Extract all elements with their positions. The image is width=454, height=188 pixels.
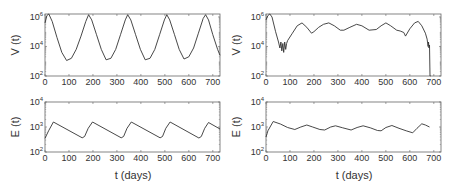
figure: 0100200300400500600700102104106010020030…	[0, 0, 454, 188]
x-tick-label: 400	[133, 77, 148, 87]
y-tick-label: 104	[30, 96, 44, 107]
x-tick-label: 100	[61, 153, 76, 163]
x-tick-label: 300	[109, 77, 124, 87]
xlabel-left: t (days)	[115, 169, 152, 181]
panel-left-bottom: 0100200300400500600700102103104	[30, 96, 221, 163]
y-tick-label: 103	[30, 121, 44, 132]
ylabel-left-bottom: E (t)	[9, 117, 21, 138]
x-tick-label: 500	[378, 153, 393, 163]
x-tick-label: 600	[402, 77, 417, 87]
x-tick-label: 500	[378, 77, 393, 87]
axes-frame	[45, 14, 220, 76]
axes-frame	[45, 102, 220, 152]
x-tick-label: 700	[205, 153, 220, 163]
y-tick-label: 106	[30, 11, 44, 22]
series-line-V	[266, 14, 431, 76]
x-tick-label: 600	[402, 153, 417, 163]
x-tick-label: 200	[85, 153, 100, 163]
axes-frame	[266, 102, 441, 152]
panel-left-top: 0100200300400500600700102104106	[30, 11, 221, 87]
ylabel-right-top: V (t)	[230, 35, 242, 56]
xlabel-right: t (days)	[336, 169, 373, 181]
x-tick-label: 300	[109, 153, 124, 163]
x-tick-label: 400	[354, 153, 369, 163]
series-line-E	[266, 122, 430, 138]
x-tick-label: 0	[263, 77, 268, 87]
x-tick-label: 400	[354, 77, 369, 87]
series-line-E	[45, 122, 220, 138]
y-tick-label: 104	[30, 40, 44, 51]
x-tick-label: 700	[205, 77, 220, 87]
x-tick-label: 500	[157, 153, 172, 163]
x-tick-label: 0	[263, 153, 268, 163]
x-tick-label: 200	[306, 77, 321, 87]
panel-right-bottom: 0100200300400500600700102103104	[251, 96, 442, 163]
x-tick-label: 300	[330, 153, 345, 163]
x-tick-label: 100	[61, 77, 76, 87]
x-tick-label: 300	[330, 77, 345, 87]
y-tick-label: 103	[251, 121, 265, 132]
x-tick-label: 600	[181, 77, 196, 87]
x-tick-label: 700	[426, 77, 441, 87]
panel-right-top: 0100200300400500600700102104106	[251, 11, 442, 87]
y-tick-label: 106	[251, 11, 265, 22]
y-tick-label: 104	[251, 40, 265, 51]
x-tick-label: 500	[157, 77, 172, 87]
ylabel-right-bottom: E (t)	[230, 117, 242, 138]
x-tick-label: 0	[42, 77, 47, 87]
x-tick-label: 200	[306, 153, 321, 163]
x-tick-label: 100	[282, 77, 297, 87]
x-tick-label: 700	[426, 153, 441, 163]
x-tick-label: 600	[181, 153, 196, 163]
x-tick-label: 100	[282, 153, 297, 163]
x-tick-label: 0	[42, 153, 47, 163]
ylabel-left-top: V (t)	[9, 35, 21, 56]
x-tick-label: 200	[85, 77, 100, 87]
x-tick-label: 400	[133, 153, 148, 163]
y-tick-label: 104	[251, 96, 265, 107]
series-line-V	[45, 14, 220, 61]
